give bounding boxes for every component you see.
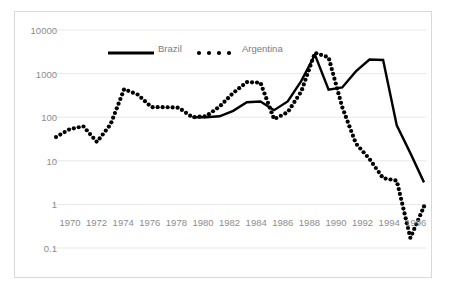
data-point-argentina — [255, 80, 259, 84]
data-point-argentina — [131, 91, 135, 95]
data-point-argentina — [151, 105, 155, 109]
data-point-argentina — [327, 57, 331, 61]
y-tick-0.1: 0.1 — [15, 244, 57, 254]
gridlines — [53, 30, 427, 248]
data-point-argentina — [332, 77, 336, 81]
data-point-argentina — [250, 80, 254, 84]
data-point-argentina — [184, 111, 188, 115]
data-point-argentina — [388, 177, 392, 181]
y-tick-1: 1 — [15, 200, 57, 210]
data-point-argentina — [147, 102, 151, 106]
y-tick-10: 10 — [15, 157, 57, 167]
data-point-argentina — [156, 105, 160, 109]
data-point-argentina — [302, 82, 306, 86]
legend-swatch-argentina — [195, 48, 237, 58]
data-point-argentina — [365, 154, 369, 158]
data-point-argentina — [355, 143, 359, 147]
data-point-argentina — [347, 124, 351, 128]
data-point-argentina — [399, 197, 403, 201]
data-point-argentina — [401, 206, 405, 210]
data-point-argentina — [264, 96, 268, 100]
data-point-argentina — [113, 111, 117, 115]
data-point-argentina — [54, 135, 58, 139]
data-point-argentina — [344, 115, 348, 119]
data-point-argentina — [292, 100, 296, 104]
data-point-argentina — [398, 192, 402, 196]
y-tick-10000: 10000 — [15, 26, 57, 36]
data-point-argentina — [342, 110, 346, 114]
data-point-argentina — [351, 134, 355, 138]
data-point-argentina — [229, 92, 233, 96]
data-point-argentina — [274, 116, 278, 120]
chart-container: 10000 1000 100 10 1 0.1 1970 1972 1974 1… — [0, 0, 450, 291]
data-point-argentina — [171, 105, 175, 109]
data-point-argentina — [139, 96, 143, 100]
data-point-argentina — [115, 106, 119, 110]
data-point-argentina — [420, 209, 424, 213]
data-point-argentina — [261, 87, 265, 91]
data-point-argentina — [380, 174, 384, 178]
data-point-argentina — [368, 158, 372, 162]
data-point-argentina — [120, 92, 124, 96]
data-point-argentina — [334, 81, 338, 85]
data-point-argentina — [358, 146, 362, 150]
data-point-argentina — [176, 106, 180, 110]
data-point-argentina — [287, 108, 291, 112]
data-point-argentina — [374, 166, 378, 170]
data-point-argentina — [319, 53, 323, 57]
data-point-argentina — [295, 96, 299, 100]
data-point-argentina — [402, 211, 406, 215]
chart-plot-frame: 10000 1000 100 10 1 0.1 1970 1972 1974 1… — [14, 11, 432, 278]
data-point-argentina — [330, 67, 334, 71]
data-point-argentina — [237, 86, 241, 90]
series-argentina-markers — [54, 51, 426, 240]
data-point-argentina — [400, 202, 404, 206]
data-point-argentina — [410, 231, 414, 235]
data-point-argentina — [67, 127, 71, 131]
data-point-argentina — [408, 236, 412, 240]
data-point-argentina — [233, 89, 237, 93]
legend-label-brazil: Brazil — [158, 44, 182, 54]
data-point-argentina — [339, 101, 343, 105]
data-point-argentina — [94, 140, 98, 144]
data-point-argentina — [91, 136, 95, 140]
data-point-argentina — [107, 125, 111, 129]
data-point-argentina — [377, 170, 381, 174]
y-tick-100: 100 — [15, 113, 57, 123]
data-point-argentina — [88, 132, 92, 136]
data-point-argentina — [245, 80, 249, 84]
data-point-argentina — [85, 128, 89, 132]
data-point-argentina — [215, 106, 219, 110]
data-point-argentina — [353, 138, 357, 142]
data-point-argentina — [98, 136, 102, 140]
data-point-argentina — [219, 103, 223, 107]
data-point-argentina — [207, 112, 211, 116]
data-point-argentina — [371, 162, 375, 166]
data-point-argentina — [393, 178, 397, 182]
data-point-argentina — [397, 187, 401, 191]
data-point-argentina — [328, 62, 332, 66]
data-point-argentina — [161, 105, 165, 109]
legend-swatch-brazil — [107, 48, 155, 58]
data-point-argentina — [111, 116, 115, 120]
data-point-argentina — [340, 106, 344, 110]
data-point-argentina — [122, 88, 126, 92]
data-point-argentina — [338, 96, 342, 100]
data-point-argentina — [241, 83, 245, 87]
y-tick-1000: 1000 — [15, 70, 57, 80]
data-point-argentina — [324, 54, 328, 58]
data-point-argentina — [101, 132, 105, 136]
legend-label-argentina: Argentina — [242, 44, 283, 54]
data-point-argentina — [77, 125, 81, 129]
data-point-argentina — [262, 91, 266, 95]
x-tick-1996: 1996 — [400, 218, 432, 228]
data-point-argentina — [109, 120, 113, 124]
data-point-argentina — [395, 182, 399, 186]
data-point-argentina — [290, 104, 294, 108]
data-point-argentina — [143, 99, 147, 103]
data-point-argentina — [116, 102, 120, 106]
data-point-argentina — [166, 105, 170, 109]
data-point-argentina — [222, 100, 226, 104]
data-point-argentina — [422, 204, 426, 208]
data-point-argentina — [346, 120, 350, 124]
